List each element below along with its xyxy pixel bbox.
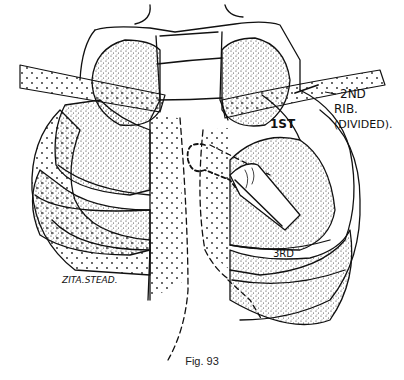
left-sternal-strip	[148, 115, 186, 300]
drawing	[20, 5, 385, 360]
label-rib: RIB.	[334, 102, 358, 116]
label-1st: 1ST	[270, 117, 296, 131]
label-3rd: 3RD	[273, 248, 294, 259]
artist-signature: ZITA.STEAD.	[61, 275, 118, 285]
label-2nd: 2ND	[340, 87, 366, 101]
label-divided: (DIVIDED).	[334, 118, 392, 131]
neck-left	[135, 5, 150, 24]
anatomical-illustration: 2ND RIB. (DIVIDED). 1ST 3RD ZITA.STEAD.	[0, 0, 404, 380]
neck-right	[225, 5, 243, 17]
figure-caption: Fig. 93	[0, 355, 404, 367]
